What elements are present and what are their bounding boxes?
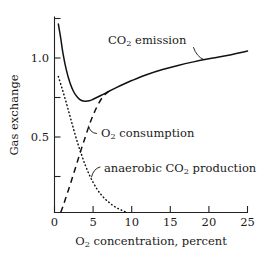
x-axis-title-rest: concentration, percent (90, 234, 227, 248)
series-anaerobic-co2-curve (58, 77, 127, 213)
y-axis-title: Gas exchange (7, 74, 21, 155)
series-label-co2-emission-main: CO (108, 33, 126, 47)
series-label-o2-consumption: O2 consumption (101, 126, 195, 141)
x-tick-label-25: 25 (240, 215, 255, 229)
series-label-anaerobic-co2-main: anaerobic CO (104, 161, 184, 175)
y-tick-label-10: 1.0 (31, 51, 49, 65)
x-tick-label-10: 10 (124, 215, 139, 229)
x-tick-label-15: 15 (163, 215, 178, 229)
y-tick-label-05: 0.5 (31, 130, 49, 144)
x-tick-label-20: 20 (202, 215, 217, 229)
series-label-anaerobic-co2-rest: production (189, 161, 257, 175)
leader-anaerobic-co2 (92, 167, 101, 177)
series-label-o2-consumption-main: O (101, 126, 110, 140)
series-label-co2-emission: CO2 emission (108, 33, 187, 48)
series-label-anaerobic-co2: anaerobic CO2 production (104, 161, 257, 176)
chart-plot-area: 0 5 10 15 20 25 1.0 0.5 Gas exchange O2 … (0, 0, 264, 264)
series-label-o2-consumption-rest: consumption (116, 126, 195, 140)
leader-co2-emission (194, 48, 204, 60)
x-tick-label-5: 5 (89, 215, 96, 229)
x-tick-label-0: 0 (51, 215, 58, 229)
series-label-co2-emission-rest: emission (131, 33, 186, 47)
x-axis-title-main: O (75, 234, 84, 248)
x-axis-title: O2 concentration, percent (75, 234, 227, 249)
chart-figure: 0 5 10 15 20 25 1.0 0.5 Gas exchange O2 … (0, 0, 264, 264)
leader-o2-consumption (89, 126, 97, 134)
